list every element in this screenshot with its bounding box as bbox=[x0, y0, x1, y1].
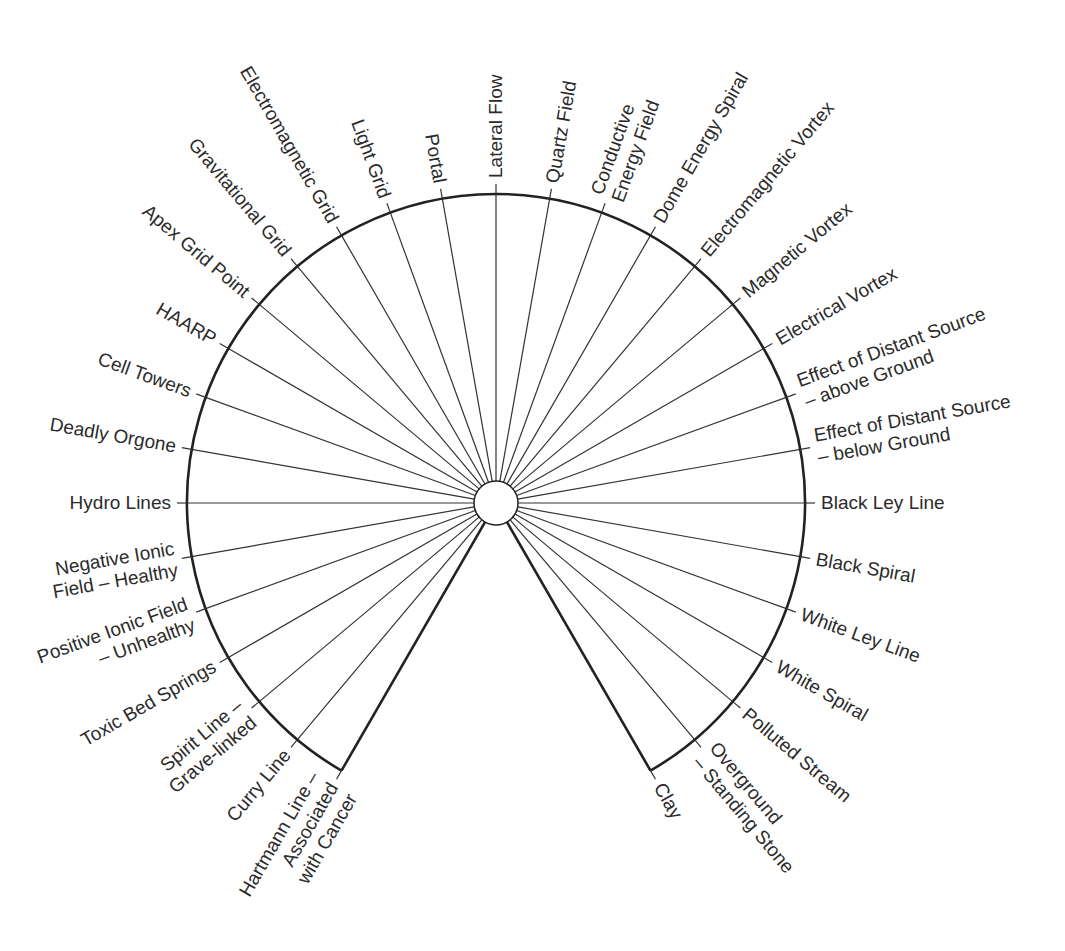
tick-mark bbox=[651, 227, 656, 236]
label-line: Portal bbox=[421, 132, 450, 185]
tick-mark bbox=[220, 344, 229, 349]
label-line: Deadly Orgone bbox=[48, 414, 178, 457]
spoke-line bbox=[206, 511, 476, 609]
spoke-label: Black Ley Line bbox=[821, 492, 945, 513]
spoke-line bbox=[228, 349, 477, 493]
spoke-label: Effect of Distant Source– below Ground bbox=[812, 390, 1016, 467]
tick-mark bbox=[786, 394, 795, 397]
sector-edge-left bbox=[342, 522, 486, 771]
spoke-line bbox=[513, 304, 733, 488]
tick-mark bbox=[764, 344, 773, 349]
tick-mark bbox=[252, 298, 260, 304]
spoke-line bbox=[515, 349, 764, 493]
spoke-line bbox=[342, 235, 486, 484]
tick-mark bbox=[602, 203, 605, 212]
spoke-label: Magnetic Vortex bbox=[738, 198, 856, 302]
spoke-label: Clay bbox=[650, 779, 687, 823]
tick-mark bbox=[196, 609, 205, 612]
label-line: Electrical Vortex bbox=[772, 263, 901, 350]
label-line: Black Spiral bbox=[814, 549, 916, 587]
label-line: Black Ley Line bbox=[821, 492, 945, 513]
spoke-line bbox=[259, 517, 479, 701]
spoke-line bbox=[390, 213, 488, 483]
label-line: Hydro Lines bbox=[70, 492, 171, 513]
spoke-line bbox=[517, 397, 787, 495]
label-line: Cell Towers bbox=[95, 348, 194, 401]
spoke-line bbox=[515, 514, 764, 658]
tick-mark bbox=[651, 771, 656, 780]
radial-chart: Hartmann Line –Associatedwith CancerCurr… bbox=[0, 0, 1065, 951]
tick-mark bbox=[800, 448, 810, 450]
label-line: Clay bbox=[650, 779, 687, 823]
spoke-line bbox=[518, 507, 801, 557]
spoke-label: Deadly Orgone bbox=[48, 414, 178, 457]
spoke-line bbox=[517, 511, 787, 609]
spoke-line bbox=[206, 397, 476, 495]
label-line: HAARP bbox=[153, 298, 220, 349]
tick-mark bbox=[441, 189, 443, 199]
label-line: Apex Grid Point bbox=[139, 200, 255, 302]
sector-edge-right bbox=[507, 522, 651, 771]
tick-mark bbox=[695, 740, 701, 748]
spoke-label: Positive Ionic Field– Unhealthy bbox=[34, 593, 198, 688]
label-line: Magnetic Vortex bbox=[738, 198, 856, 302]
tick-mark bbox=[252, 702, 260, 708]
tick-mark bbox=[182, 448, 192, 450]
tick-mark bbox=[291, 740, 297, 748]
spoke-line bbox=[510, 266, 694, 486]
spokes-group bbox=[187, 194, 805, 740]
tick-mark bbox=[733, 702, 741, 708]
spoke-line bbox=[513, 517, 733, 701]
tick-mark bbox=[196, 394, 205, 397]
spoke-line bbox=[297, 266, 481, 486]
tick-mark bbox=[337, 771, 342, 780]
label-line: White Spiral bbox=[772, 656, 871, 725]
label-line: White Ley Line bbox=[798, 604, 923, 667]
spoke-label: Negative IonicField – Healthy bbox=[47, 538, 180, 602]
tick-mark bbox=[695, 259, 701, 267]
spoke-label: Quartz Field bbox=[542, 79, 581, 185]
spoke-label: Cell Towers bbox=[95, 348, 194, 401]
spoke-line bbox=[228, 514, 477, 658]
spoke-label: Lateral Flow bbox=[485, 74, 506, 178]
spoke-label: Spirit Line –Grave-linked bbox=[150, 695, 260, 797]
spoke-label: White Ley Line bbox=[798, 604, 923, 667]
tick-mark bbox=[291, 259, 297, 267]
tick-mark bbox=[182, 557, 192, 559]
tick-mark bbox=[733, 298, 741, 304]
spoke-line bbox=[518, 449, 801, 499]
spoke-line bbox=[297, 520, 481, 740]
spoke-label: Apex Grid Point bbox=[139, 200, 255, 302]
label-line: Quartz Field bbox=[542, 79, 581, 185]
spoke-line bbox=[192, 449, 475, 499]
label-line: Lateral Flow bbox=[485, 74, 506, 178]
spoke-label: Electrical Vortex bbox=[772, 263, 901, 350]
tick-mark bbox=[550, 189, 552, 199]
spoke-label: HAARP bbox=[153, 298, 220, 349]
spoke-line bbox=[500, 199, 550, 482]
tick-mark bbox=[220, 658, 229, 663]
label-line: Light Grid bbox=[347, 116, 395, 201]
tick-mark bbox=[800, 557, 810, 559]
spoke-line bbox=[507, 235, 651, 484]
tick-mark bbox=[337, 227, 342, 236]
tick-mark bbox=[786, 609, 795, 612]
tick-mark bbox=[387, 203, 390, 212]
spoke-line bbox=[442, 199, 492, 482]
spoke-label: Portal bbox=[421, 132, 450, 185]
spoke-line bbox=[504, 213, 602, 483]
spoke-label: Black Spiral bbox=[814, 549, 916, 587]
spoke-line bbox=[510, 520, 694, 740]
tick-mark bbox=[764, 658, 773, 663]
spoke-label: White Spiral bbox=[772, 656, 871, 725]
spoke-label: ConductiveEnergy Field bbox=[586, 90, 663, 205]
spoke-line bbox=[259, 304, 479, 488]
center-hub bbox=[474, 481, 518, 525]
spoke-label: Hydro Lines bbox=[70, 492, 171, 513]
spoke-line bbox=[192, 507, 475, 557]
spoke-label: Light Grid bbox=[347, 116, 395, 201]
